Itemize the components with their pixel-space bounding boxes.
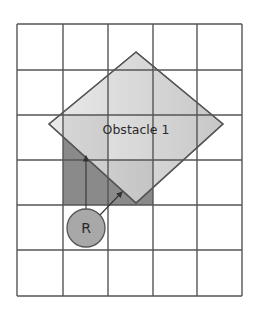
robot-label: R (81, 220, 91, 236)
obstacle-label: Obstacle 1 (103, 122, 170, 137)
occupancy-grid-diagram: Obstacle 1 R (0, 0, 254, 315)
